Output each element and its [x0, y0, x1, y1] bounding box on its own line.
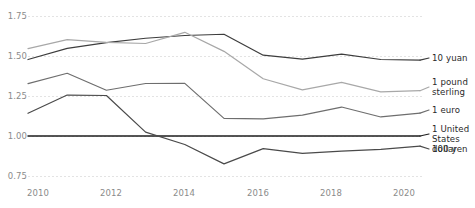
series-lines-group	[28, 32, 420, 164]
x-tick-label-2014: 2014	[164, 188, 204, 198]
series-line-1-pound-sterling	[28, 32, 420, 92]
x-tick-label-2020: 2020	[384, 188, 424, 198]
legend-item-100-yen[interactable]: 100 yen	[432, 144, 468, 154]
legend-connector-10-yuan	[420, 58, 429, 60]
legend-connector-stubs	[420, 58, 429, 149]
chart-plot-area	[0, 0, 475, 208]
y-tick-label-1.50: 1.50	[1, 51, 27, 61]
legend-connector-1-pound-sterling	[420, 87, 429, 91]
legend-item-1-euro[interactable]: 1 euro	[432, 105, 460, 115]
legend-connector-100-yen	[420, 146, 429, 149]
x-tick-label-2010: 2010	[18, 188, 58, 198]
y-tick-label-1.25: 1.25	[1, 91, 27, 101]
y-tick-label-1.75: 1.75	[1, 11, 27, 21]
legend-item-1-pound-sterling[interactable]: 1 pound sterling	[432, 77, 468, 97]
x-tick-label-2012: 2012	[91, 188, 131, 198]
y-tick-label-0.75: 0.75	[1, 171, 27, 181]
gridlines-group	[28, 16, 423, 176]
y-tick-label-1.00: 1.00	[1, 131, 27, 141]
legend-connector-1-euro	[420, 110, 429, 113]
currency-line-chart: 1.75 1.50 1.25 1.00 0.75 2010 2012 2014 …	[0, 0, 475, 208]
legend-item-10-yuan[interactable]: 10 yuan	[432, 53, 468, 63]
series-line-100-yen	[28, 95, 420, 164]
x-tick-label-2016: 2016	[238, 188, 278, 198]
x-tick-label-2018: 2018	[311, 188, 351, 198]
legend-connector-1-united-states-dollar	[420, 134, 429, 136]
